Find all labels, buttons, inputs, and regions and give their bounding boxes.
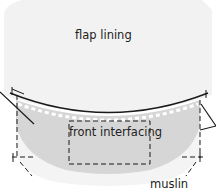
flap-lining-shape — [4, 0, 212, 113]
front-interfacing-label: front interfacing — [69, 125, 162, 139]
flap-diagram: flap lining front interfacing muslin — [0, 0, 216, 195]
muslin-label: muslin — [150, 177, 188, 191]
leader-line-right — [200, 126, 216, 130]
leader-line-right-diag — [201, 104, 216, 126]
flap-lining-label: flap lining — [75, 28, 132, 42]
